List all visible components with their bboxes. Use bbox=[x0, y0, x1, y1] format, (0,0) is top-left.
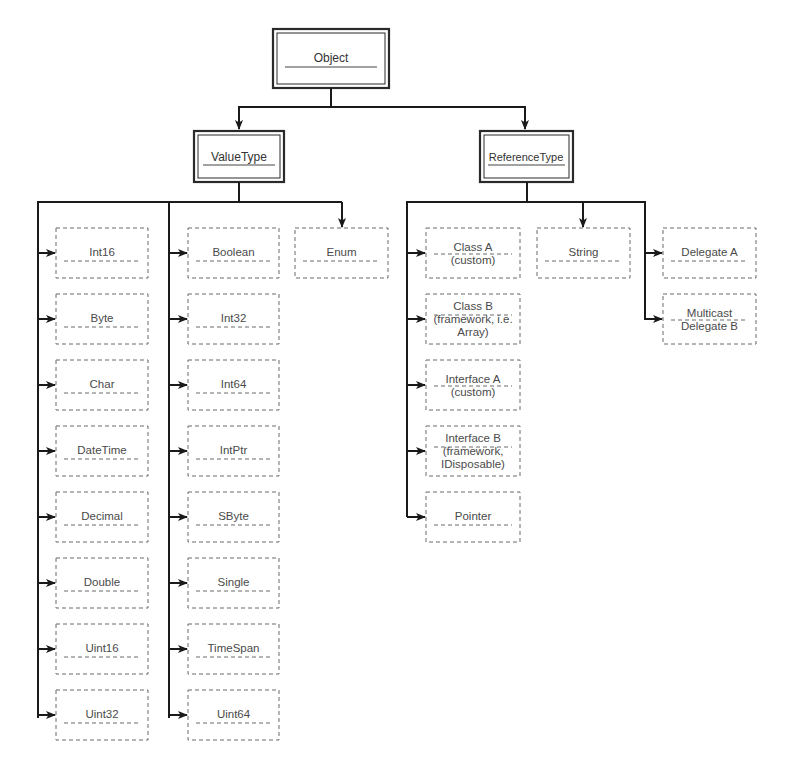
type-label: Int64 bbox=[221, 378, 247, 390]
type-node-uint16: Uint16 bbox=[38, 624, 148, 674]
type-label: Uint16 bbox=[85, 642, 118, 654]
root-label: Object bbox=[314, 51, 349, 65]
type-label: Single bbox=[218, 576, 250, 588]
type-label: Uint64 bbox=[217, 708, 251, 720]
referencetype-column-2: String bbox=[537, 228, 630, 278]
type-label: Class A bbox=[454, 241, 493, 253]
type-node-interface-a-custom: Interface A(custom) bbox=[407, 360, 520, 410]
valuetype-label: ValueType bbox=[211, 150, 267, 164]
type-node-intptr: IntPtr bbox=[169, 426, 279, 476]
type-label: (custom) bbox=[451, 254, 496, 266]
type-node-enum: Enum bbox=[295, 228, 388, 278]
type-label: Byte bbox=[90, 312, 113, 324]
referencetype-label: ReferenceType bbox=[489, 151, 564, 163]
type-node-int16: Int16 bbox=[38, 228, 148, 278]
category-node-referencetype: ReferenceType bbox=[480, 131, 573, 182]
type-label: Pointer bbox=[455, 510, 492, 522]
type-label: String bbox=[568, 246, 598, 258]
type-label: Interface A bbox=[446, 373, 501, 385]
type-label: Int32 bbox=[221, 312, 247, 324]
referencetype-column-3: Delegate AMulticastDelegate B bbox=[645, 228, 756, 344]
referencetype-column-1: Class A(custom)Class B(framework, i.e.Ar… bbox=[407, 228, 520, 542]
type-label: Array) bbox=[457, 326, 488, 338]
type-node-boolean: Boolean bbox=[169, 228, 279, 278]
type-node-class-a-custom: Class A(custom) bbox=[407, 228, 520, 278]
type-node-int32: Int32 bbox=[169, 294, 279, 344]
type-label: Delegate A bbox=[681, 246, 738, 258]
type-label: Int16 bbox=[89, 246, 115, 258]
type-node-delegate-a: Delegate A bbox=[645, 228, 756, 278]
type-node-int64: Int64 bbox=[169, 360, 279, 410]
type-node-interface-b-framework-idisposable: Interface B(framework,IDisposable) bbox=[407, 426, 520, 476]
root-node-object: Object bbox=[273, 29, 389, 88]
type-label: Delegate B bbox=[681, 320, 738, 332]
type-hierarchy-diagram: Object ValueType ReferenceType Int16Byte… bbox=[0, 0, 786, 780]
type-node-byte: Byte bbox=[38, 294, 148, 344]
type-label: (custom) bbox=[451, 386, 496, 398]
valuetype-column-2: BooleanInt32Int64IntPtrSByteSingleTimeSp… bbox=[169, 228, 279, 740]
type-node-sbyte: SByte bbox=[169, 492, 279, 542]
type-label: Class B bbox=[453, 300, 493, 312]
type-label: Boolean bbox=[212, 246, 254, 258]
type-node-double: Double bbox=[38, 558, 148, 608]
type-node-uint32: Uint32 bbox=[38, 690, 148, 740]
type-label: Double bbox=[84, 576, 120, 588]
type-node-class-b-framework-i-e-array: Class B(framework, i.e.Array) bbox=[407, 294, 520, 344]
type-label: SByte bbox=[218, 510, 249, 522]
valuetype-column-1: Int16ByteCharDateTimeDecimalDoubleUint16… bbox=[38, 228, 148, 740]
valuetype-column-3: Enum bbox=[295, 228, 388, 278]
type-node-uint64: Uint64 bbox=[169, 690, 279, 740]
type-label: Char bbox=[90, 378, 115, 390]
type-label: Multicast bbox=[687, 307, 733, 319]
type-label: Decimal bbox=[81, 510, 123, 522]
type-node-string: String bbox=[537, 228, 630, 278]
type-label: DateTime bbox=[77, 444, 126, 456]
type-label: Uint32 bbox=[85, 708, 118, 720]
type-label: Enum bbox=[326, 246, 356, 258]
type-node-pointer: Pointer bbox=[407, 492, 520, 542]
type-label: IntPtr bbox=[220, 444, 248, 456]
type-node-char: Char bbox=[38, 360, 148, 410]
type-node-datetime: DateTime bbox=[38, 426, 148, 476]
type-node-single: Single bbox=[169, 558, 279, 608]
type-node-multicast-delegate-b: MulticastDelegate B bbox=[645, 294, 756, 344]
category-node-valuetype: ValueType bbox=[194, 131, 284, 182]
root-connectors bbox=[239, 88, 525, 129]
type-node-decimal: Decimal bbox=[38, 492, 148, 542]
type-node-timespan: TimeSpan bbox=[169, 624, 279, 674]
type-label: Interface B bbox=[445, 432, 501, 444]
type-label: IDisposable) bbox=[441, 458, 505, 470]
type-label: TimeSpan bbox=[208, 642, 260, 654]
